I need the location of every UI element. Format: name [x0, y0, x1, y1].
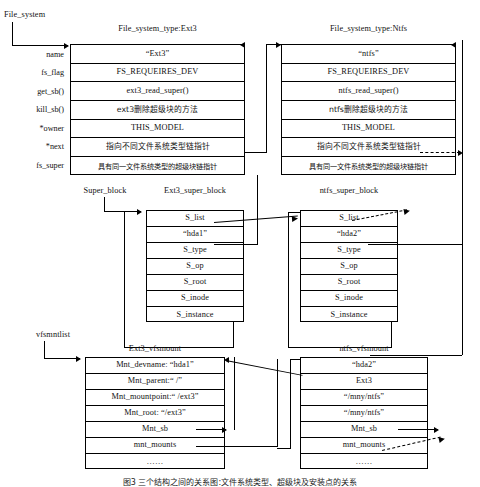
ext3-sb-to-vfs-rail	[233, 322, 234, 348]
ntfs-vfsmount-cell-root: “/mny/ntfs”	[301, 406, 427, 422]
ext3-fs-type-cell-fs-super: 具有同一文件系统类型的超级块链指针	[71, 157, 244, 176]
diagram-canvas: File_system name fs_flag get_sb() kill_s…	[0, 0, 480, 487]
ntfs-sb-cell-s-type: S_type	[301, 243, 397, 259]
ext3-sb-cell-s-type: S_type	[147, 243, 243, 259]
ext3-sb-cell-device: “hda1”	[147, 227, 243, 243]
root-label: File_system	[4, 10, 45, 20]
ext3-vfsmount-cell-parent: Mnt_parent:“ /”	[86, 374, 224, 390]
field-label-fs-super: fs_super	[6, 161, 64, 171]
ext3-vfsmount-cell-sb: Mnt_sb	[86, 422, 224, 438]
ntfs-fs-type-cell-fs-super: 具有同一文件系统类型的超级块链指针	[282, 157, 455, 176]
ext3-sb-cell-s-instance: S_instance	[147, 307, 243, 323]
ntfs-fs-type-cell-name: “ntfs”	[282, 45, 455, 64]
ext3-sb-cell-s-op: S_op	[147, 259, 243, 275]
field-label-owner: *owner	[6, 124, 64, 134]
ext3-sb-cell-s-root: S_root	[147, 275, 243, 291]
ntfs-s-type-stub	[368, 244, 462, 245]
ext3-vfsmount-title: Ext3_vfsmount	[85, 344, 225, 354]
super-block-label-connector-vertical	[104, 197, 105, 212]
ntfs-next-dashed-line	[420, 152, 460, 153]
ntfs-sb-cell-s-root: S_root	[301, 275, 397, 291]
ntfs-vfsmount-left-rail-top	[290, 359, 300, 360]
root-connector-horizontal	[12, 45, 68, 46]
ext3-mnt-mounts-riser	[277, 359, 278, 446]
ntfs-vfsmount-left-rail-bottom	[277, 448, 291, 449]
next-chain-vertical	[266, 44, 267, 152]
ntfs-sb-cell-s-inode: S_inode	[301, 291, 397, 307]
ext3-vfsmount-cell-devname: Mnt_devname: “hda1”	[86, 358, 224, 374]
ext3-vfsmount-cell-mountpoint: Mnt_mountpoint:“ /ext3”	[86, 390, 224, 406]
ntfs-vfsmount-box: “hda2” Ext3 “/mny/ntfs” “/mny/ntfs” Mnt_…	[300, 357, 428, 469]
ext3-fs-type-cell-fs-flag: FS_REQUEIRES_DEV	[71, 64, 244, 83]
sb-list-link-arrowhead	[292, 216, 298, 222]
root-connector-vertical	[12, 22, 13, 46]
vfsmntlist-arrowhead	[76, 356, 81, 362]
ext3-vfsmount-cell-root: Mnt_root: “/ext3”	[86, 406, 224, 422]
ext3-super-block-title: Ext3_super_block	[146, 186, 244, 196]
field-label-next: *next	[6, 142, 64, 152]
ext3-fs-type-cell-owner: THIS_MODEL	[71, 120, 244, 139]
ntfs-mnt-sb-arrowhead	[434, 427, 439, 433]
field-label-fs-flag: fs_flag	[6, 68, 64, 78]
ext3-fs-type-cell-next: 指向不同文件系统类型链指针	[71, 138, 244, 157]
ntfs-sb-cell-s-instance: S_instance	[301, 307, 397, 323]
ext3-fs-type-cell-name: “Ext3”	[71, 45, 244, 64]
ntfs-sb-left-rail	[288, 212, 289, 348]
figure-caption: 图3 三个结构之间的关系图:文件系统类型、超级块及安装点的关系	[0, 476, 480, 487]
field-label-name: name	[6, 50, 64, 60]
ntfs-vfsmount-cell-sb: Mnt_sb	[301, 422, 427, 438]
ext3-s-type-riser	[257, 175, 258, 244]
ext3-fs-type-cell-kill-sb: ext3删除超级块的方法	[71, 101, 244, 120]
next-chain-arrowhead-ntfs	[276, 42, 281, 48]
field-label-get-sb: get_sb()	[6, 87, 64, 97]
ntfs-fs-type-cell-fs-flag: FS_REQUEIRES_DEV	[282, 64, 455, 83]
ntfs-mnt-mounts-dashed-arrowhead	[438, 436, 445, 443]
ntfs-fs-type-title: File_system_type:Ntfs	[281, 24, 456, 34]
ntfs-super-block-box: S_list “hda2” S_type S_op S_root S_inode…	[300, 210, 398, 322]
ntfs-sb-left-rail-top	[288, 212, 300, 213]
ext3-fs-type-top-arrowhead	[240, 42, 245, 48]
ext3-vfsmount-cell-ellipsis: ……	[86, 454, 224, 470]
super-block-label-arrowhead	[137, 209, 142, 215]
ntfs-mnt-sb-stub	[398, 429, 438, 430]
ext3-sb-cell-s-list: S_list	[147, 211, 243, 227]
ext3-fs-type-title: File_system_type:Ext3	[70, 24, 245, 34]
right-rail-bottom	[370, 355, 462, 356]
ext3-mnt-sb-arrowhead	[222, 427, 227, 433]
ext3-s-type-stub	[214, 244, 258, 245]
ext3-fs-type-cell-get-sb: ext3_read_super()	[71, 82, 244, 101]
root-connector-arrowhead	[64, 43, 69, 49]
ntfs-vfsmount-backref-arrowhead	[224, 357, 229, 363]
ntfs-fs-type-cell-get-sb: ntfs_read_super()	[282, 82, 455, 101]
ext3-sb-cell-s-inode: S_inode	[147, 291, 243, 307]
super-block-label-connector-horizontal	[104, 211, 141, 212]
ntfs-vfsmount-cell-parent: Ext3	[301, 374, 427, 390]
ntfs-sb-cell-s-op: S_op	[301, 259, 397, 275]
ntfs-fs-type-cell-next: 指向不同文件系统类型链指针	[282, 138, 455, 157]
ext3-vfs-left-rail	[234, 357, 235, 430]
ext3-vfsmount-box: Mnt_devname: “hda1” Mnt_parent:“ /” Mnt_…	[85, 357, 225, 469]
vfsmntlist-connector-horizontal	[44, 358, 80, 359]
ntfs-sb-list-dashed-arrowhead	[403, 208, 410, 215]
ext3-super-block-box: S_list “hda1” S_type S_op S_root S_inode…	[146, 210, 244, 322]
ntfs-fs-type-box: “ntfs” FS_REQUEIRES_DEV ntfs_read_super(…	[281, 44, 456, 175]
ntfs-super-block-title: ntfs_super_block	[300, 186, 398, 196]
ext3-fs-type-box: “Ext3” FS_REQUEIRES_DEV ext3_read_super(…	[70, 44, 245, 175]
ntfs-vfsmount-backref-diagonal	[226, 360, 303, 376]
vfsmntlist-connector-vertical	[44, 341, 45, 359]
field-label-kill-sb: kill_sb()	[6, 105, 64, 115]
ntfs-vfsmount-cell-mounts: mnt_mounts	[301, 438, 427, 454]
ntfs-fs-type-cell-owner: THIS_MODEL	[282, 120, 455, 139]
ntfs-vfsmount-cell-ellipsis: ……	[301, 454, 427, 470]
ntfs-sb-cell-device: “hda2”	[301, 227, 397, 243]
ntfs-fs-type-top-arrowhead	[451, 42, 456, 48]
ext3-mnt-mounts-stub	[196, 446, 278, 447]
vfsmntlist-label: vfsmntlist	[18, 330, 88, 340]
ntfs-vfsmount-cell-devname: “hda2”	[301, 358, 427, 374]
ntfs-vfsmount-title: ntfs_vfsmount	[300, 344, 428, 354]
ext3-fs-super-rail	[124, 211, 125, 348]
next-chain-ext3-stub	[245, 152, 267, 153]
super-block-list-label: Super_block	[70, 186, 140, 196]
ntfs-fs-type-cell-kill-sb: ntfs删除超级块的方法	[282, 101, 455, 120]
ntfs-vfsmount-cell-mountpoint: “/mny/ntfs”	[301, 390, 427, 406]
